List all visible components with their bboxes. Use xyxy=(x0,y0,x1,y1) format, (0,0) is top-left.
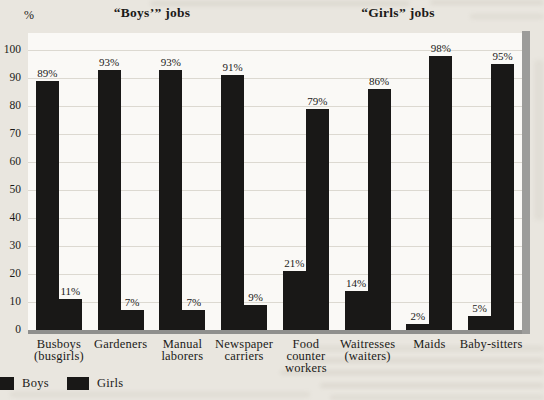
bar-girls-2 xyxy=(121,310,144,330)
book-page: % “Boys’” jobs “Girls” jobs 010203040506… xyxy=(0,0,544,400)
legend-swatch-boys xyxy=(0,377,14,390)
y-tick-label-40: 40 xyxy=(0,211,21,224)
bar-girls-3 xyxy=(182,310,205,330)
bar-girls-5 xyxy=(306,109,329,330)
bleed-line xyxy=(534,60,544,220)
legend-swatch-girls xyxy=(67,377,89,390)
legend-label-girls: Girls xyxy=(97,376,124,391)
legend-item-boys: Boys xyxy=(0,376,49,391)
y-axis-unit-label: % xyxy=(24,8,34,23)
x-axis-labels: Busboys(busgirls)GardenersManuallaborers… xyxy=(0,338,544,378)
bar-value-label-boys-3: 93% xyxy=(151,56,191,68)
y-tick-label-80: 80 xyxy=(0,99,21,112)
bar-value-label-girls-1: 11% xyxy=(50,285,90,297)
bar-boys-2 xyxy=(98,70,121,330)
category-label-line: (waiters) xyxy=(325,350,411,362)
legend-label-boys: Boys xyxy=(22,376,49,391)
bar-girls-6 xyxy=(368,89,391,330)
y-tick-label-20: 20 xyxy=(0,267,21,280)
bar-value-label-girls-8: 95% xyxy=(483,50,523,62)
y-tick-label-100: 100 xyxy=(0,43,21,56)
bar-boys-5 xyxy=(283,271,306,330)
y-axis: 0102030405060708090100 xyxy=(0,33,22,330)
category-label-8: Baby-sitters xyxy=(448,338,534,350)
bar-girls-4 xyxy=(244,305,267,330)
boys-jobs-group-title: “Boys’” jobs xyxy=(52,5,252,21)
bar-value-label-girls-7: 98% xyxy=(421,42,461,54)
bar-value-label-girls-6: 86% xyxy=(359,75,399,87)
girls-jobs-group-title: “Girls” jobs xyxy=(298,5,498,21)
category-label-line: Baby-sitters xyxy=(448,338,534,350)
y-tick-label-50: 50 xyxy=(0,183,21,196)
legend: BoysGirls xyxy=(0,376,123,391)
legend-item-girls: Girls xyxy=(67,376,124,391)
bar-value-label-boys-4: 91% xyxy=(213,61,253,73)
bleed-line xyxy=(10,392,310,397)
y-tick-label-30: 30 xyxy=(0,239,21,252)
y-tick-label-90: 90 xyxy=(0,71,21,84)
bleed-line xyxy=(330,395,544,400)
y-tick-label-70: 70 xyxy=(0,127,21,140)
plot-area: 89%11%93%7%93%7%91%9%21%79%14%86%2%98%5%… xyxy=(28,33,522,330)
bar-value-label-boys-1: 89% xyxy=(27,67,67,79)
bar-boys-3 xyxy=(159,70,182,330)
bleed-line xyxy=(320,383,544,388)
bar-value-label-girls-2: 7% xyxy=(112,296,152,308)
category-label-line: workers xyxy=(263,362,349,374)
plot-right-shadow xyxy=(522,31,530,334)
bar-value-label-boys-2: 93% xyxy=(89,56,129,68)
category-label-line: (busgirls) xyxy=(16,350,102,362)
bar-boys-6 xyxy=(345,291,368,330)
x-axis-line xyxy=(28,330,530,334)
bar-boys-8 xyxy=(468,316,491,330)
y-tick-label-60: 60 xyxy=(0,155,21,168)
bar-value-label-girls-4: 9% xyxy=(236,291,276,303)
y-tick-label-0: 0 xyxy=(0,323,21,336)
bar-value-label-girls-5: 79% xyxy=(297,95,337,107)
bar-girls-1 xyxy=(59,299,82,330)
bar-value-label-girls-3: 7% xyxy=(174,296,214,308)
bar-girls-8 xyxy=(491,64,514,330)
y-tick-label-10: 10 xyxy=(0,295,21,308)
bar-girls-7 xyxy=(429,56,452,330)
